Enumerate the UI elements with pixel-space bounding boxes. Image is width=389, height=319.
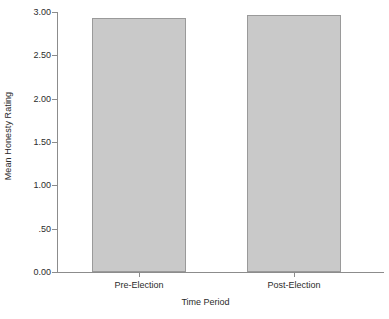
y-tick-label: 2.50 bbox=[33, 50, 51, 60]
y-tick-label: 2.00 bbox=[33, 94, 51, 104]
y-tick-label: 3.00 bbox=[33, 7, 51, 17]
y-axis-title: Mean Honesty Rating bbox=[0, 0, 16, 272]
x-axis-title-text: Time Period bbox=[181, 297, 229, 307]
y-tick-label: 1.00 bbox=[33, 180, 51, 190]
x-tick-mark bbox=[294, 273, 295, 277]
x-axis-title: Time Period bbox=[0, 297, 389, 307]
x-tick-mark bbox=[139, 273, 140, 277]
x-tick-label-post-election: Post-Election bbox=[267, 280, 320, 290]
bar-pre-election bbox=[92, 18, 186, 272]
y-axis-title-text: Mean Honesty Rating bbox=[3, 92, 13, 180]
x-axis-line bbox=[57, 272, 384, 273]
y-axis-tick-labels: 3.00 2.50 2.00 1.50 1.00 .50 0.00 bbox=[18, 0, 51, 272]
y-tick-label: 1.50 bbox=[33, 137, 51, 147]
plot-area bbox=[58, 12, 384, 272]
x-tick-label-pre-election: Pre-Election bbox=[114, 280, 163, 290]
bar-post-election bbox=[247, 15, 341, 272]
bar-chart: Mean Honesty Rating 3.00 2.50 2.00 1.50 … bbox=[0, 0, 389, 319]
y-tick-label: 0.00 bbox=[33, 267, 51, 277]
y-tick-label: .50 bbox=[38, 224, 51, 234]
